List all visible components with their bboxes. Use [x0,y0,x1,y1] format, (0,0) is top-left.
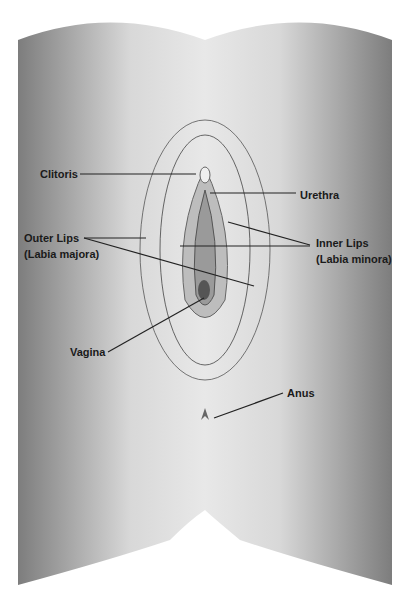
label-labia-minora: (Labia minora) [316,252,392,266]
anatomy-diagram: Clitoris Urethra Outer Lips (Labia major… [0,0,411,601]
label-urethra: Urethra [300,188,339,202]
label-outer-lips: Outer Lips [24,231,79,245]
label-clitoris: Clitoris [40,167,78,181]
label-anus: Anus [287,386,315,400]
diagram-figure [0,0,411,601]
label-vagina: Vagina [70,345,105,359]
label-labia-majora: (Labia majora) [24,247,99,261]
label-inner-lips: Inner Lips [316,236,369,250]
